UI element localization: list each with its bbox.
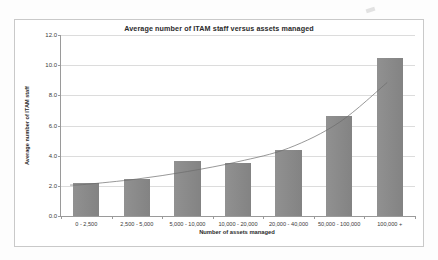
y-tick-label: 0.0 bbox=[49, 213, 57, 219]
x-tick-label: 10,000 - 20,000 bbox=[218, 221, 257, 227]
page-background: Average number of ITAM staff versus asse… bbox=[0, 0, 438, 260]
x-tick-mark bbox=[213, 216, 214, 219]
x-tick-label: 100,000 + bbox=[377, 221, 402, 227]
x-tick-mark bbox=[263, 216, 264, 219]
trendline bbox=[61, 35, 415, 216]
x-tick-mark bbox=[415, 216, 416, 219]
x-axis-title: Number of assets managed bbox=[60, 229, 414, 235]
chart-frame: Average number of ITAM staff versus asse… bbox=[14, 19, 424, 247]
chart-title: Average number of ITAM staff versus asse… bbox=[15, 24, 423, 33]
y-tick-label: 10.0 bbox=[45, 62, 57, 68]
x-tick-mark bbox=[314, 216, 315, 219]
x-tick-mark bbox=[112, 216, 113, 219]
x-tick-mark bbox=[61, 216, 62, 219]
y-axis-title: Average number of ITAM staff bbox=[21, 35, 33, 216]
y-tick-label: 12.0 bbox=[45, 32, 57, 38]
y-tick-label: 4.0 bbox=[49, 153, 57, 159]
scan-artifact-mark bbox=[366, 7, 376, 14]
x-tick-label: 0 - 2,500 bbox=[75, 221, 97, 227]
x-tick-mark bbox=[162, 216, 163, 219]
x-tick-label: 5,000 - 10,000 bbox=[169, 221, 205, 227]
y-tick-label: 2.0 bbox=[49, 183, 57, 189]
y-tick-label: 8.0 bbox=[49, 92, 57, 98]
x-tick-label: 2,500 - 5,000 bbox=[120, 221, 153, 227]
x-tick-label: 20,000 - 40,000 bbox=[269, 221, 308, 227]
x-tick-mark bbox=[364, 216, 365, 219]
plot-area: 0.02.04.06.08.010.012.0 0 - 2,5002,500 -… bbox=[60, 35, 415, 217]
x-tick-label: 50,000 - 100,000 bbox=[318, 221, 360, 227]
y-tick-label: 6.0 bbox=[49, 123, 57, 129]
